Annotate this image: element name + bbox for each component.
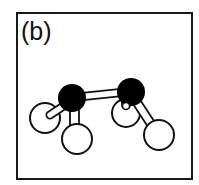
dark-atom-left <box>58 84 86 112</box>
molecule-diagram <box>0 0 199 185</box>
light-atom-far-right <box>144 120 174 150</box>
light-atom-lower-left <box>62 124 92 154</box>
bond-stub-middle <box>123 103 130 110</box>
dark-atom-right <box>117 78 145 106</box>
